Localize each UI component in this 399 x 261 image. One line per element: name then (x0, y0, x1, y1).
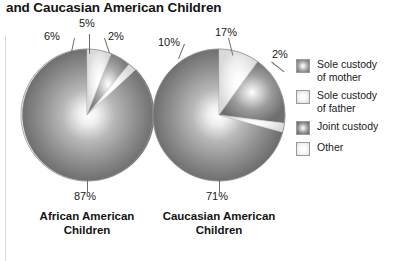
legend-item-sole-custody-father: Sole custody of father (296, 89, 396, 114)
legend-line2: of father (317, 102, 356, 114)
legend-label-sole-custody-mother: Sole custody of mother (317, 58, 377, 83)
pie-left-label-5: 5% (79, 17, 95, 29)
pie-chart-figure: and Caucasian American Children (0, 0, 399, 261)
legend-line1: Sole custody (317, 58, 377, 70)
legend-label-joint-custody: Joint custody (317, 120, 378, 133)
left-vertical-rule (5, 36, 6, 261)
legend-line1: Joint custody (317, 120, 378, 132)
legend-label-other: Other (317, 141, 343, 154)
pie-chart-african-american (20, 48, 154, 182)
pie-left-label-2: 2% (108, 30, 124, 42)
pie-right-svg (152, 48, 286, 182)
legend-item-joint-custody: Joint custody (296, 120, 396, 135)
legend-swatch-dark-icon (296, 59, 310, 73)
caption-african-american: African American Children (12, 209, 162, 237)
caption-left-line2: Children (12, 223, 162, 237)
pie-right-label-71: 71% (206, 190, 228, 202)
caption-caucasian-american: Caucasian American Children (144, 209, 294, 237)
pie-left-svg (20, 48, 154, 182)
legend-item-other: Other (296, 141, 396, 156)
figure-title: and Caucasian American Children (6, 0, 221, 15)
pie-right-label-2: 2% (272, 48, 288, 60)
legend-line1: Other (317, 141, 343, 153)
pie-left-label-87: 87% (74, 190, 96, 202)
legend-swatch-lightest-icon (296, 142, 310, 156)
legend-swatch-light-icon (296, 90, 310, 104)
pie-right-label-10: 10% (158, 36, 180, 48)
legend-line2: of mother (317, 71, 361, 83)
caption-right-line2: Children (144, 223, 294, 237)
pie-left-label-6: 6% (44, 30, 60, 42)
legend-swatch-mid-dark-icon (296, 121, 310, 135)
legend-item-sole-custody-mother: Sole custody of mother (296, 58, 396, 83)
pie-right-label-17: 17% (215, 26, 237, 38)
chart-legend: Sole custody of mother Sole custody of f… (296, 58, 396, 162)
caption-left-line1: African American (12, 209, 162, 223)
leader-left-5 (89, 34, 90, 54)
legend-line1: Sole custody (317, 89, 377, 101)
caption-right-line1: Caucasian American (144, 209, 294, 223)
pie-chart-caucasian-american (152, 48, 286, 182)
legend-label-sole-custody-father: Sole custody of father (317, 89, 377, 114)
